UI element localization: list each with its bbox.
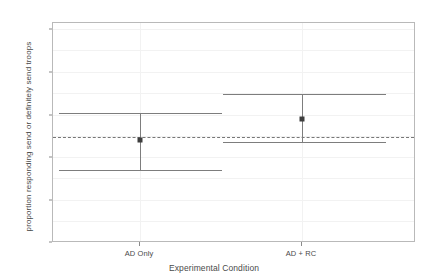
plot-panel [52,22,415,242]
data-point-ad-rc [300,117,305,122]
chart-figure: proportion responding send or definitely… [0,0,428,280]
gridline-y-0.8 [53,115,414,116]
gridline-y-minor-0.65 [53,178,414,179]
x-tick-label-ad-only: AD Only [125,249,154,258]
errorbar-cap-upper-ad-rc [223,94,386,95]
reference-line [53,137,414,138]
plot-area [53,23,414,241]
x-tick-mark-ad-only [139,242,140,246]
y-axis-title: proportion responding send or definitely… [24,17,33,257]
gridline-y-minor-0.55 [53,221,414,222]
x-tick-mark-ad-rc [301,242,302,246]
gridline-y-0.6 [53,200,414,201]
errorbar-cap-lower-ad-only [59,170,222,171]
data-point-ad-only [138,138,143,143]
gridline-y-minor-0.95 [53,50,414,51]
gridline-y-0.7 [53,157,414,158]
x-axis-title: Experimental Condition [0,263,428,273]
x-tick-label-ad-rc: AD + RC [286,249,317,258]
gridline-y-0.9 [53,72,414,73]
gridline-y-1.0 [53,29,414,30]
errorbar-cap-lower-ad-rc [223,142,386,143]
